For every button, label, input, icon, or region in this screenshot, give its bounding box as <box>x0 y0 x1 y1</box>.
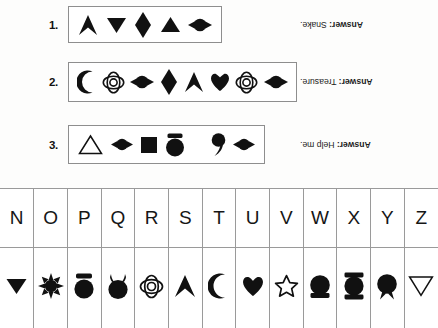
key-letter-cell: R <box>135 189 169 248</box>
glyph-cap-circle <box>73 272 95 300</box>
cipher-key-table: N O P Q R S T U V W X Y Z <box>0 188 438 328</box>
key-letter-cell: V <box>270 189 304 248</box>
worksheet-page: 1. Answer: Snake. 2. <box>0 0 438 328</box>
glyph-cloverleaf <box>102 71 125 94</box>
key-letter-cell: Y <box>371 189 405 248</box>
key-symbol-cell <box>371 248 405 328</box>
glyph-eared-circle <box>106 272 130 300</box>
puzzle-number-3: 3. <box>36 139 58 151</box>
answer-3: Answer: Help me. <box>300 140 371 150</box>
puzzle-number-2: 2. <box>36 76 58 88</box>
key-letter-cell: T <box>202 189 236 248</box>
key-symbol-cell <box>270 248 304 328</box>
puzzle-row-1: 1. <box>36 6 222 43</box>
key-symbol-cell <box>135 248 169 328</box>
key-symbol-cell <box>202 248 236 328</box>
key-letter-cell: N <box>0 189 34 248</box>
glyph-lens <box>233 136 255 153</box>
key-letter-cell: W <box>303 189 337 248</box>
glyph-lens <box>111 136 133 153</box>
key-letter-cell: U <box>236 189 270 248</box>
glyph-crescent <box>208 273 229 299</box>
key-letter-cell: X <box>337 189 371 248</box>
answer-1-prefix: Answer: <box>329 20 363 30</box>
key-letter-cell: Q <box>101 189 135 248</box>
glyph-triangle-up-outline <box>78 134 103 155</box>
glyph-chevron-up <box>174 274 196 298</box>
code-box-3 <box>68 125 265 164</box>
glyph-comma <box>211 132 226 157</box>
glyph-lens <box>188 16 212 34</box>
glyph-circle-tail <box>375 272 399 301</box>
key-symbol-cell <box>303 248 337 328</box>
answer-3-prefix: Answer: <box>337 140 371 150</box>
glyph-crescent <box>77 70 96 94</box>
glyph-star-outline <box>274 274 299 298</box>
key-symbol-cell <box>236 248 270 328</box>
answer-1: Answer: Snake. <box>300 20 363 30</box>
glyph-triangle-down-filled <box>106 15 127 35</box>
glyph-square-filled <box>140 136 158 154</box>
key-letters-row: N O P Q R S T U V W X Y Z <box>0 189 438 248</box>
puzzle-row-2: 2. <box>36 62 297 102</box>
key-symbol-cell <box>0 248 34 328</box>
answer-3-text: Help me. <box>300 140 337 150</box>
glyph-sunburst <box>38 273 64 299</box>
key-symbol-cell <box>101 248 135 328</box>
glyph-triangle-down-filled <box>5 276 28 296</box>
key-letter-cell: P <box>67 189 101 248</box>
key-letter-cell: S <box>168 189 202 248</box>
glyph-heart <box>210 72 230 92</box>
glyph-circle-base <box>308 273 332 300</box>
glyph-cap-circle <box>165 132 185 158</box>
answer-2: Answer: Treasure. <box>300 77 373 87</box>
code-box-2 <box>68 62 297 102</box>
key-symbol-cell <box>404 248 438 328</box>
key-letter-cell: O <box>34 189 68 248</box>
key-symbol-cell <box>168 248 202 328</box>
answer-2-prefix: Answer: <box>339 77 373 87</box>
glyph-heart <box>242 275 264 297</box>
glyph-cloverleaf <box>139 274 164 299</box>
glyph-chevron-up <box>184 71 204 93</box>
glyph-cloverleaf <box>235 71 258 94</box>
glyph-diamond <box>160 69 178 95</box>
glyph-chevron-up <box>78 14 98 36</box>
glyph-triangle-down-outline <box>408 275 434 297</box>
key-letter-cell: Z <box>404 189 438 248</box>
glyph-diamond <box>134 12 152 38</box>
key-symbol-cell <box>337 248 371 328</box>
key-symbols-row <box>0 248 438 328</box>
puzzle-row-3: 3. <box>36 125 265 164</box>
code-box-1 <box>68 6 222 43</box>
key-symbol-cell <box>67 248 101 328</box>
key-symbol-cell <box>34 248 68 328</box>
answer-1-text: Snake. <box>300 20 329 30</box>
answer-2-text: Treasure. <box>300 77 339 87</box>
glyph-lens <box>264 73 288 91</box>
glyph-lens <box>130 73 154 91</box>
glyph-circle-bars <box>342 271 366 301</box>
puzzle-number-1: 1. <box>36 19 58 31</box>
glyph-triangle-up-filled <box>160 15 181 34</box>
